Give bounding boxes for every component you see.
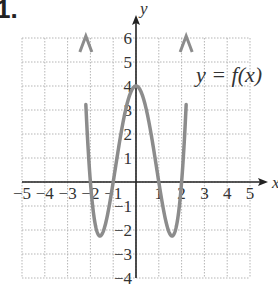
y-tick-label: 2: [124, 125, 133, 144]
y-tick-label: −4: [114, 269, 133, 288]
function-label: y = f(x): [194, 62, 262, 87]
x-tick-label: 5: [246, 184, 255, 203]
x-tick-label: −5: [13, 184, 31, 203]
function-graph: −5−4−3−2−112345654321−1−2−3−4 y x y = f(…: [0, 0, 278, 295]
y-tick-label: −1: [114, 197, 132, 216]
x-tick-label: −3: [59, 184, 77, 203]
axes: [22, 15, 268, 278]
y-tick-label: 5: [124, 53, 133, 72]
x-axis-label: x: [271, 173, 278, 192]
y-tick-label: −3: [114, 245, 132, 264]
y-axis-label: y: [138, 0, 148, 18]
y-tick-label: 6: [124, 29, 133, 48]
y-tick-label: 1: [124, 149, 133, 168]
x-tick-label: 4: [223, 184, 232, 203]
x-tick-label: −4: [36, 184, 55, 203]
y-tick-label: −2: [114, 221, 132, 240]
x-tick-label: 3: [200, 184, 209, 203]
